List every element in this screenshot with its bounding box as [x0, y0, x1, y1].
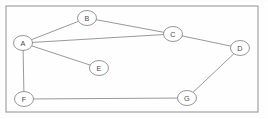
edge-c-d: [182, 36, 231, 46]
node-a[interactable]: A: [14, 36, 33, 51]
graph-svg: ABCDEFG: [0, 0, 268, 119]
node-b[interactable]: B: [78, 11, 97, 26]
node-e[interactable]: E: [90, 61, 109, 76]
edge-a-b: [32, 21, 79, 39]
node-c[interactable]: C: [164, 27, 183, 42]
node-g-label: G: [184, 94, 190, 103]
edge-f-g: [34, 98, 178, 99]
edge-d-g: [193, 54, 234, 93]
edge-layer: [23, 20, 234, 99]
node-layer: ABCDEFG: [14, 11, 250, 107]
edge-a-c: [32, 35, 163, 43]
diagram-canvas: ABCDEFG: [0, 0, 268, 119]
node-c-label: C: [170, 30, 175, 39]
node-f-label: F: [22, 95, 27, 104]
node-a-label: A: [21, 39, 26, 48]
edge-a-f: [23, 51, 24, 92]
node-b-label: B: [85, 14, 90, 23]
node-e-label: E: [97, 64, 102, 73]
node-f[interactable]: F: [15, 92, 34, 107]
node-d-label: D: [237, 44, 242, 53]
node-g[interactable]: G: [178, 91, 197, 106]
edge-b-c: [96, 20, 164, 33]
edge-a-e: [32, 46, 90, 65]
diagram-border-frame: [6, 6, 258, 112]
node-d[interactable]: D: [231, 41, 250, 56]
